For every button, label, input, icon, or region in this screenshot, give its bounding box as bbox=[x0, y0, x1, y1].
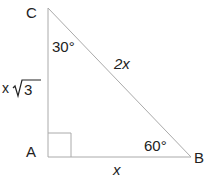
side-label-ac-radicand: 3 bbox=[24, 81, 32, 98]
angle-label-c: 30° bbox=[52, 38, 75, 55]
side-bc bbox=[48, 8, 191, 157]
side-label-bc: 2x bbox=[113, 55, 130, 72]
side-label-ab: x bbox=[112, 161, 121, 176]
side-label-ac: x 3 bbox=[2, 80, 41, 98]
vertex-label-b: B bbox=[194, 149, 204, 166]
triangle-diagram: C A B 30° 60° 2x x x 3 bbox=[0, 0, 206, 176]
vertex-label-c: C bbox=[26, 4, 37, 21]
angle-label-b: 60° bbox=[144, 137, 167, 154]
right-angle-marker bbox=[48, 133, 71, 157]
side-label-ac-prefix: x bbox=[2, 80, 9, 96]
vertex-label-a: A bbox=[26, 143, 36, 160]
